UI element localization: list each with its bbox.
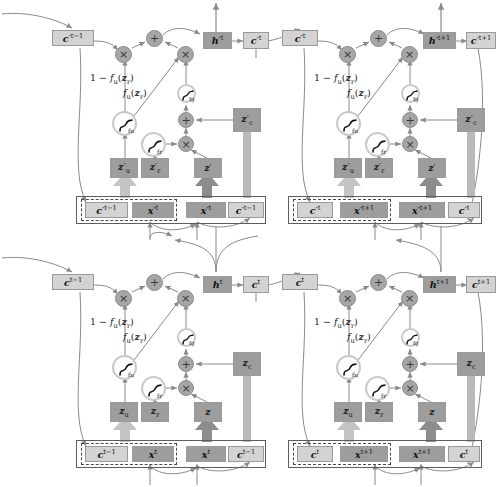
bl-fr-activation[interactable]: fr [141,376,166,401]
tl-input-c-box[interactable]: c′t−1 [85,202,128,218]
bl-zc-label: zc [242,358,251,370]
tl-input-c-label: c′t−1 [96,205,116,216]
bl-z-box[interactable]: z [194,402,222,422]
br-zc-box[interactable]: zc [457,352,485,376]
tl-add-cell[interactable]: + [178,112,194,128]
br-c-out-box[interactable]: ct+1 [466,276,496,293]
tr-fg-activation[interactable]: fg [401,84,420,103]
tr-c-prev-box[interactable]: c′t [282,30,318,46]
br-input-x2-box[interactable]: xt+1 [399,446,445,462]
tl-fr-activation[interactable]: fr [141,132,166,157]
bl-h-out-box[interactable]: ht [203,276,232,293]
tl-zr-box[interactable]: z′r [141,158,169,178]
tr-h-out-box[interactable]: h′t+1 [423,32,456,49]
br-input-x2-label: xt+1 [413,449,431,460]
br-fr-activation[interactable]: fr [365,376,390,401]
bl-input-x-label: xt [149,449,157,460]
br-zr-label: zr [375,406,384,418]
tl-zc-box[interactable]: z′c [233,108,261,132]
bl-zr-box[interactable]: zr [141,402,169,422]
bl-zc-box[interactable]: zc [233,352,261,376]
br-input-x-box[interactable]: xt+1 [340,446,388,462]
tl-c-out-box[interactable]: c′t [243,32,269,49]
tr-input-x-label: x′t+1 [354,205,374,216]
tl-c-out-label: c′t [251,35,262,46]
tr-zu-box[interactable]: z′u [334,158,362,178]
bl-input-c2-label: ct−1 [237,449,255,460]
bl-zu-box[interactable]: zu [110,402,138,422]
bl-h-out-label: ht [213,279,223,290]
svg-text:fg: fg [413,340,419,347]
tr-input-x2-box[interactable]: x′t+1 [399,202,445,218]
tr-zr-box[interactable]: z′r [365,158,393,178]
tr-multiply-left[interactable]: × [339,46,356,63]
tl-input-x-box[interactable]: x′t [132,202,174,218]
bl-input-x2-box[interactable]: xt [186,446,226,462]
br-z-box[interactable]: z [418,402,446,422]
br-input-c2-box[interactable]: ct [448,446,480,462]
tr-fu-activation[interactable]: fu [336,111,361,136]
br-zc-label: zc [466,358,475,370]
bl-add-top[interactable]: + [146,274,163,291]
br-fu-activation[interactable]: fu [336,355,361,380]
bl-add-cell[interactable]: + [178,356,194,372]
bl-fg-activation[interactable]: fg [177,328,196,347]
bl-input-x-box[interactable]: xt [132,446,174,462]
bl-fu-activation[interactable]: fu [112,355,137,380]
tl-c-prev-box[interactable]: c′t−1 [52,30,94,46]
tr-input-x-box[interactable]: x′t+1 [340,202,388,218]
bl-c-prev-box[interactable]: ct−1 [52,274,94,290]
br-zu-box[interactable]: zu [334,402,362,422]
bl-c-prev-label: ct−1 [64,277,82,288]
tl-add-top[interactable]: + [146,30,163,47]
tl-fg-activation[interactable]: fg [177,84,196,103]
tr-zc-box[interactable]: z′c [457,108,485,132]
tl-input-c2-box[interactable]: c′t−1 [228,202,264,218]
br-input-c2-label: ct [460,449,468,460]
br-fg-activation[interactable]: fg [401,328,420,347]
bl-input-x2-label: xt [202,449,210,460]
tl-multiply-reset[interactable]: × [178,136,194,152]
tr-input-c2-box[interactable]: c′t [448,202,480,218]
tl-multiply-right[interactable]: × [177,46,194,63]
tr-multiply-reset[interactable]: × [402,136,418,152]
bl-z-label: z [205,407,210,417]
br-add-cell[interactable]: + [402,356,418,372]
tl-z-box[interactable]: z′ [194,158,222,178]
tr-z-box[interactable]: z′ [418,158,446,178]
br-c-prev-box[interactable]: ct [282,274,318,290]
tr-fu-zr-label: fu(zr) [347,87,371,101]
br-input-c-box[interactable]: ct [297,446,333,462]
br-h-out-box[interactable]: ht+1 [423,276,456,293]
tr-c-out-label: c′t+1 [471,35,491,46]
tr-fr-activation[interactable]: fr [365,132,390,157]
tl-fu-activation[interactable]: fu [112,111,137,136]
tl-input-c2-label: c′t−1 [236,205,256,216]
bl-input-c-box[interactable]: ct−1 [85,446,128,462]
bl-multiply-left[interactable]: × [115,290,132,307]
bl-input-c2-box[interactable]: ct−1 [228,446,264,462]
tr-input-c-box[interactable]: c′t [297,202,333,218]
bl-input-c-label: ct−1 [97,449,115,460]
tl-zu-box[interactable]: z′u [110,158,138,178]
tl-h-out-box[interactable]: h′t [203,32,232,49]
br-multiply-right[interactable]: × [401,290,418,307]
br-multiply-reset[interactable]: × [402,380,418,396]
tr-add-cell[interactable]: + [402,112,418,128]
br-add-top[interactable]: + [370,274,387,291]
tr-add-top[interactable]: + [370,30,387,47]
br-c-out-label: ct+1 [472,279,490,290]
bl-multiply-reset[interactable]: × [178,380,194,396]
tr-input-c-label: c′t [310,205,321,216]
tl-one-minus-fu-label: 1 − fu(zr) [90,72,134,86]
bl-multiply-right[interactable]: × [177,290,194,307]
tr-multiply-right[interactable]: × [401,46,418,63]
br-multiply-left[interactable]: × [339,290,356,307]
tl-multiply-left[interactable]: × [115,46,132,63]
br-c-prev-label: ct [296,277,304,288]
tr-c-out-box[interactable]: c′t+1 [466,32,496,49]
br-zr-box[interactable]: zr [365,402,393,422]
bl-c-out-box[interactable]: ct [243,276,269,293]
tl-zu-label: z′u [118,162,130,174]
tl-input-x2-box[interactable]: x′t [186,202,226,218]
